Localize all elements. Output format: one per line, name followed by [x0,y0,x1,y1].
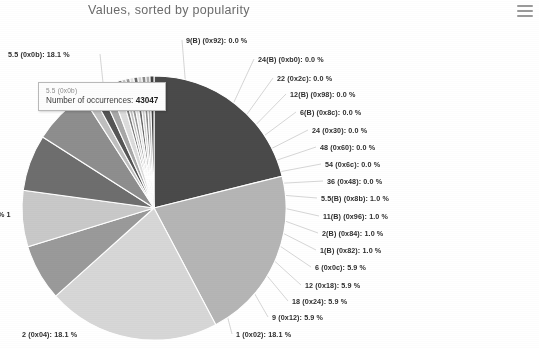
slice-callout-label: 54 (0x6c): 0.0 % [325,160,380,169]
slice-callout-label: % 1 [0,210,11,219]
slice-callout-label: 5.5(B) (0x8b): 1.0 % [321,194,389,203]
slice-callout-label: 48 (0x60): 0.0 % [320,143,375,152]
slice-callout-label: 5.5 (0x0b): 18.1 % [8,50,70,59]
chart-tooltip: 5.5 (0x0b) Number of occurrences: 43047 [38,82,166,111]
slice-callout-label: 9 (0x12): 5.9 % [272,313,323,322]
tooltip-series-name: 5.5 (0x0b) [46,86,158,95]
slice-callout-label: 36 (0x48): 0.0 % [327,177,382,186]
tooltip-metric-value: 43047 [136,96,159,105]
tooltip-metric-label: Number of occurrences: [46,96,133,105]
slice-callout-label: 11(B) (0x96): 1.0 % [323,212,388,221]
slice-callout-label: 12 (0x18): 5.9 % [305,281,360,290]
slice-callout-label: 6(B) (0x8c): 0.0 % [300,108,361,117]
slice-callout-label: 1(B) (0x82): 1.0 % [320,246,381,255]
slice-callout-label: 1 (0x02): 18.1 % [236,330,291,339]
slice-callout-label: 24(B) (0xb0): 0.0 % [258,55,324,64]
slice-callout-label: 2(B) (0x84): 1.0 % [322,229,383,238]
chart-page: Values, sorted by popularity 9(B) (0x92)… [0,0,539,348]
slice-callout-label: 24 (0x30): 0.0 % [312,126,367,135]
pie-slices[interactable] [22,76,286,340]
slice-callout-label: 22 (0x2c): 0.0 % [277,74,332,83]
slice-callout-label: 6 (0x0c): 5.9 % [315,263,366,272]
slice-callout-label: 2 (0x04): 18.1 % [22,330,77,339]
pie-chart[interactable] [0,0,539,348]
slice-callout-label: 12(B) (0x98): 0.0 % [290,90,355,99]
slice-callout-label: 18 (0x24): 5.9 % [292,297,347,306]
tooltip-metric: Number of occurrences: 43047 [46,95,158,106]
slice-callout-label: 9(B) (0x92): 0.0 % [186,36,247,45]
